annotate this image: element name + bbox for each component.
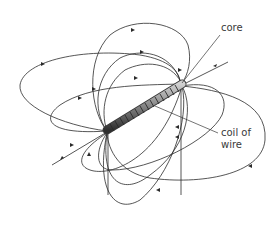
coil-of-wire-label: coil of wire xyxy=(221,127,251,151)
arrow-icon xyxy=(134,76,138,80)
leader-lines xyxy=(155,35,220,133)
arrow-icon xyxy=(178,68,182,72)
coil-label-line1: coil of xyxy=(221,127,251,139)
arrow-icon xyxy=(175,125,179,129)
arrow-icon xyxy=(131,28,135,32)
arrow-icon xyxy=(70,143,74,147)
core-label: core xyxy=(221,22,243,34)
coil-label-line2: wire xyxy=(221,139,251,151)
field-lines xyxy=(20,23,265,204)
arrow-icon xyxy=(156,188,160,192)
arrow-icon xyxy=(140,50,144,54)
arrow-icon xyxy=(92,87,96,91)
solenoid-coil xyxy=(107,84,182,131)
arrow-icon xyxy=(78,96,82,100)
coil-leader-line xyxy=(155,106,218,133)
field-line-lower-1 xyxy=(82,86,182,171)
arrow-icon xyxy=(87,152,91,156)
arrow-icon xyxy=(175,135,179,139)
arrow-icon xyxy=(213,64,217,67)
